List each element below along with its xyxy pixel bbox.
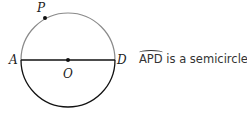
label-P: P [36,1,46,15]
arc-label: APD [139,52,163,66]
label-A: A [8,53,18,67]
point-O [66,58,70,62]
upper-arc [21,13,115,60]
label-O: O [63,67,73,81]
caption-text: is a semicircle. [163,52,247,66]
caption: APD is a semicircle. [139,52,247,66]
label-D: D [116,53,127,67]
point-P [43,16,47,20]
